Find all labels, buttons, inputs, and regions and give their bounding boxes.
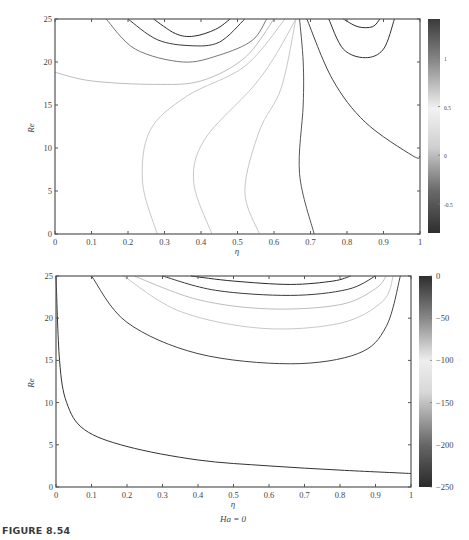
- figure: 00.10.20.30.40.50.60.70.80.91 0510152025…: [0, 0, 469, 540]
- x-tick-label: 0: [53, 237, 57, 247]
- x-tick-label: 0.9: [370, 490, 381, 500]
- contour-line: [193, 19, 295, 234]
- top-colorbar-ticks: 10.50-0.5: [438, 56, 453, 208]
- bottom-y-axis-label: Re: [26, 378, 36, 389]
- y-tick-label: 5: [48, 186, 52, 196]
- y-tick-label: 5: [49, 440, 53, 450]
- colorbar-tick-label: −250: [436, 482, 454, 492]
- y-tick-label: 25: [44, 14, 53, 24]
- top-y-ticks: 0510152025: [44, 14, 421, 239]
- x-tick-label: 0.3: [157, 490, 168, 500]
- x-tick-label: 0.1: [86, 490, 97, 500]
- x-tick-label: 0: [54, 490, 58, 500]
- top-colorbar: [428, 19, 440, 233]
- bottom-colorbar-ticks: 0−50−100−150−200−250: [430, 271, 454, 492]
- x-tick-label: 0.7: [299, 490, 310, 500]
- colorbar-tick-label: 0: [436, 271, 440, 281]
- contour-line: [299, 19, 314, 234]
- y-tick-label: 10: [44, 143, 53, 153]
- x-tick-label: 0.4: [196, 237, 207, 247]
- contour-line: [329, 19, 395, 58]
- colorbar-tick-label: -0.5: [444, 202, 453, 208]
- contour-line: [123, 276, 393, 329]
- top-y-axis-label: Re: [26, 123, 36, 134]
- bottom-contour-chart: 00.10.20.30.40.50.60.70.80.91 0510152025…: [26, 271, 454, 524]
- bottom-colorbar: [419, 276, 432, 487]
- x-tick-label: 0.9: [378, 237, 389, 247]
- x-tick-label: 0.7: [305, 237, 316, 247]
- top-contour-chart: 00.10.20.30.40.50.60.70.80.91 0510152025…: [26, 14, 453, 256]
- x-tick-label: 1: [409, 490, 413, 500]
- contour-line: [142, 19, 285, 234]
- x-tick-label: 0.1: [86, 237, 97, 247]
- x-tick-label: 0.6: [264, 490, 275, 500]
- x-tick-label: 0.8: [342, 237, 353, 247]
- ha-annotation: Ha = 0: [219, 514, 247, 524]
- contour-line: [343, 19, 380, 28]
- x-tick-label: 0.6: [269, 237, 280, 247]
- colorbar-tick-label: −200: [436, 440, 454, 450]
- contour-line: [191, 276, 351, 284]
- contour-line: [154, 19, 231, 37]
- y-tick-label: 20: [44, 57, 53, 67]
- contour-line: [55, 19, 274, 84]
- y-tick-label: 15: [44, 100, 53, 110]
- y-tick-label: 0: [49, 482, 53, 492]
- top-plot-frame: [55, 19, 420, 234]
- colorbar-tick-label: 0.5: [444, 105, 451, 111]
- x-tick-label: 0.3: [159, 237, 170, 247]
- x-tick-label: 0.4: [193, 490, 204, 500]
- colorbar-tick-label: 0: [444, 153, 447, 159]
- colorbar-tick-label: −100: [436, 355, 454, 365]
- y-tick-label: 0: [48, 229, 52, 239]
- contour-line: [128, 19, 245, 46]
- contour-line: [106, 19, 267, 62]
- y-tick-label: 25: [45, 271, 54, 281]
- x-tick-label: 0.2: [122, 490, 133, 500]
- bottom-x-axis-label: η: [231, 499, 236, 509]
- y-tick-label: 15: [45, 355, 54, 365]
- y-tick-label: 20: [45, 313, 54, 323]
- top-x-ticks: 00.10.20.30.40.50.60.70.80.91: [53, 19, 422, 247]
- contour-line: [134, 276, 386, 309]
- colorbar-tick-label: −150: [436, 398, 454, 408]
- bottom-x-ticks: 00.10.20.30.40.50.60.70.80.91: [54, 276, 413, 500]
- x-tick-label: 0.8: [335, 490, 346, 500]
- x-tick-label: 0.2: [123, 237, 134, 247]
- y-tick-label: 10: [45, 398, 54, 408]
- contour-line: [92, 276, 401, 364]
- bottom-contour-lines: [56, 276, 411, 473]
- contour-line: [245, 19, 296, 234]
- figure-caption: FIGURE 8.54: [2, 525, 70, 536]
- contour-line: [307, 19, 420, 158]
- colorbar-tick-label: 1: [444, 56, 447, 62]
- colorbar-tick-label: −50: [436, 313, 449, 323]
- top-contour-lines: [55, 19, 420, 234]
- bottom-y-ticks: 0510152025: [45, 271, 412, 492]
- bottom-plot-frame: [56, 276, 411, 487]
- x-tick-label: 1: [418, 237, 422, 247]
- top-x-axis-label: η: [235, 246, 240, 256]
